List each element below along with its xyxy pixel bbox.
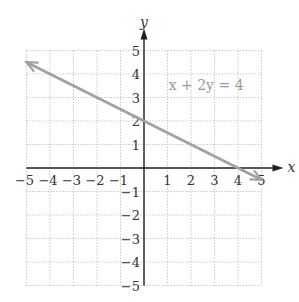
- y-tick-label: 1: [132, 138, 140, 153]
- y-tick-label: 5: [132, 44, 140, 59]
- x-tick-label: −3: [62, 173, 81, 188]
- coordinate-plane: −5−4−3−2−11234554321−1−2−3−4−5 x y x + 2…: [0, 0, 299, 302]
- y-tick-label: −3: [121, 232, 140, 247]
- y-tick-label: 4: [132, 67, 140, 82]
- x-tick-label: −5: [15, 173, 34, 188]
- y-tick-label: −5: [121, 279, 140, 294]
- x-tick-label: −4: [38, 173, 57, 188]
- equation-label: x + 2y = 4: [169, 77, 244, 93]
- axes: [27, 29, 284, 286]
- x-tick-label: 1: [163, 173, 171, 188]
- y-tick-label: −4: [121, 255, 140, 270]
- y-tick-label: −2: [121, 208, 140, 223]
- x-axis-label: x: [288, 159, 296, 175]
- x-tick-label: 3: [210, 173, 218, 188]
- x-tick-label: 4: [234, 173, 242, 188]
- y-axis-label: y: [139, 14, 149, 30]
- x-tick-label: −2: [85, 173, 104, 188]
- y-tick-label: 3: [132, 91, 140, 106]
- y-tick-label: −1: [121, 185, 140, 200]
- x-tick-label: 2: [187, 173, 195, 188]
